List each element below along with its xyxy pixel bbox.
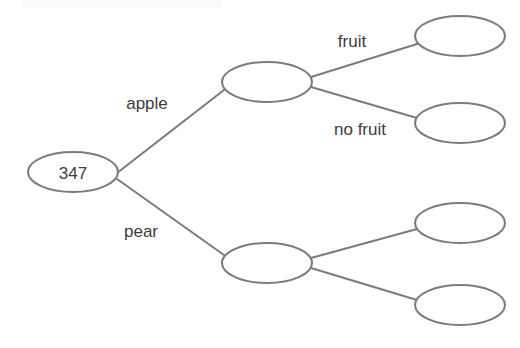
node-ellipse-pear-fruit[interactable] [415,203,505,243]
node-ellipse-apple-fruit[interactable] [415,16,505,56]
node-ellipse-apple-no-fruit[interactable] [415,103,505,143]
tree-node-pear-no-fruit[interactable] [415,285,505,325]
tree-node-apple-no-fruit[interactable] [415,103,505,143]
tree-edge-apple-to-no-fruit [311,87,417,118]
edge-label-root-pear: pear [124,222,158,241]
edge-label-root-apple: apple [126,94,168,113]
edge-label-apple-to-no-fruit: no fruit [334,120,386,139]
tree-node-pear-fruit[interactable] [415,203,505,243]
tree-edge-root-pear [117,179,224,255]
nodes-layer: 347 [28,16,505,325]
node-ellipse-pear[interactable] [222,243,312,283]
tree-diagram-svg: 347 applepearfruitno fruit [0,0,520,348]
tree-edge-pear-to-fruit [311,229,417,258]
edge-label-apple-to-fruit: fruit [338,32,367,51]
tree-node-pear[interactable] [222,243,312,283]
tree-edge-pear-to-no-fruit [311,268,417,300]
node-ellipse-pear-no-fruit[interactable] [415,285,505,325]
tree-diagram-canvas: 347 applepearfruitno fruit [0,0,520,348]
tree-node-root[interactable]: 347 [28,152,118,192]
node-label-root: 347 [59,164,87,183]
node-ellipse-apple[interactable] [222,62,312,102]
tree-node-apple-fruit[interactable] [415,16,505,56]
tree-node-apple[interactable] [222,62,312,102]
